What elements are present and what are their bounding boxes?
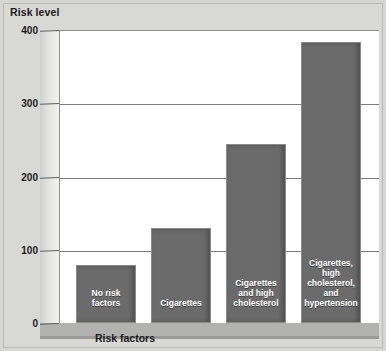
chart-figure: Risk level 400 300 200 100 0 No risk fac…: [0, 0, 386, 351]
y-tick-label-400: 400: [4, 25, 38, 36]
bar-cigarettes[interactable]: Cigarettes: [151, 228, 211, 323]
bar-no-risk-factors[interactable]: No risk factors: [76, 265, 136, 323]
y-tick-label-100: 100: [4, 245, 38, 256]
y-tick-label-200: 200: [4, 172, 38, 183]
x-axis-title-text: Risk factors: [95, 332, 155, 344]
bar-label: Cigarettes, high cholesterol, and hypert…: [302, 258, 360, 308]
bar-cigarettes-high-cholesterol-hypertension[interactable]: Cigarettes, high cholesterol, and hypert…: [301, 42, 361, 323]
y-tick-label-300: 300: [4, 98, 38, 109]
y-tick-label-0: 0: [4, 318, 38, 329]
bar-label: No risk factors: [77, 288, 135, 308]
x-axis-title: Risk factors: [0, 332, 386, 344]
bar-label: Cigarettes and high cholesterol: [227, 278, 285, 308]
y-axis-title: Risk level: [10, 6, 59, 18]
bar-cigarettes-high-cholesterol[interactable]: Cigarettes and high cholesterol: [226, 144, 286, 323]
bar-label: Cigarettes: [152, 298, 210, 308]
